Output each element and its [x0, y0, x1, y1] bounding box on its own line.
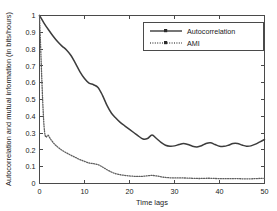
- y-tick-label: 0.8: [26, 45, 36, 54]
- x-tick-label: 50: [261, 187, 269, 196]
- y-tick-label: 0.7: [26, 62, 36, 71]
- y-tick-label: 0.1: [26, 162, 36, 171]
- y-tick-label: 1: [32, 11, 36, 20]
- legend-label-ami: AMI: [187, 39, 200, 48]
- x-tick-label: 0: [38, 187, 42, 196]
- x-tick-label: 30: [171, 187, 179, 196]
- autocorrelation-ami-line-chart: 01020304050 00.10.20.30.40.50.60.70.80.9…: [0, 0, 277, 211]
- x-tick-label: 20: [126, 187, 134, 196]
- y-tick-label: 0.6: [26, 78, 36, 87]
- legend-marker-autocorrelation: [164, 29, 167, 32]
- x-axis-title: Time lags: [136, 198, 168, 207]
- y-axis-title: Autocorrelation and mutual information (…: [4, 12, 13, 186]
- x-tick-label: 10: [81, 187, 89, 196]
- y-tick-label: 0: [32, 179, 36, 188]
- y-tick-label: 0.9: [26, 28, 36, 37]
- chart-figure: 01020304050 00.10.20.30.40.50.60.70.80.9…: [0, 0, 277, 211]
- y-tick-label: 0.5: [26, 95, 36, 104]
- legend-label-autocorrelation: Autocorrelation: [187, 27, 235, 36]
- y-tick-label: 0.3: [26, 129, 36, 138]
- x-tick-label: 40: [216, 187, 224, 196]
- x-axis-tick-labels: 01020304050: [38, 187, 269, 196]
- y-tick-label: 0.4: [26, 112, 36, 121]
- y-axis-tick-labels: 00.10.20.30.40.50.60.70.80.91: [26, 11, 36, 188]
- legend-marker-ami: [164, 41, 167, 44]
- y-tick-label: 0.2: [26, 146, 36, 155]
- chart-legend: Autocorrelation AMI: [144, 23, 264, 51]
